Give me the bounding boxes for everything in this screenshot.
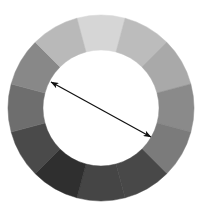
wheel-segments (8, 15, 194, 201)
color-wheel (0, 0, 201, 208)
color-wheel-diagram (0, 0, 201, 208)
complementary-arrow (51, 82, 151, 137)
